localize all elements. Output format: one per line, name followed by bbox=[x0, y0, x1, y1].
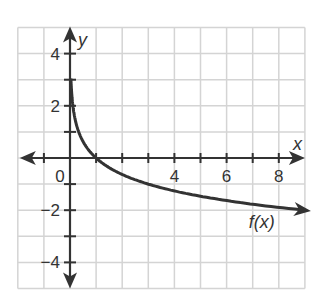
y-tick-label: −4 bbox=[41, 253, 60, 272]
function-graph: 046842−2−4 x y f(x) bbox=[0, 0, 324, 303]
x-tick-label: 4 bbox=[170, 167, 179, 186]
x-tick-label: 6 bbox=[222, 167, 231, 186]
x-tick-label: 0 bbox=[55, 167, 64, 186]
function-curve-f bbox=[71, 78, 301, 209]
x-axis-label: x bbox=[292, 134, 303, 154]
y-axis-label: y bbox=[76, 30, 88, 50]
y-tick-label: 4 bbox=[51, 45, 60, 64]
y-tick-label: 2 bbox=[51, 97, 60, 116]
axes bbox=[20, 27, 305, 289]
x-tick-label: 8 bbox=[274, 167, 283, 186]
y-tick-label: −2 bbox=[41, 201, 60, 220]
series-label-fx: f(x) bbox=[249, 212, 275, 232]
